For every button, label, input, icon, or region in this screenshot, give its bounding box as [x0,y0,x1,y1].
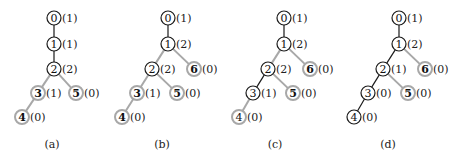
edge-1-2 [156,50,164,63]
tree-node-0: 0(1) [392,11,423,25]
node-count-label: (1) [62,12,78,25]
tree-node-1: 1(2) [277,37,308,51]
node-count-label: (0) [84,87,100,100]
node-count-label: (0) [376,87,392,100]
node-id-label: 4 [351,111,358,124]
edge-1-6 [173,49,189,64]
tree-node-1: 1(1) [47,37,78,51]
tree-diagram-svg: 0(1)1(1)2(2)3(1)5(0)4(0)(a)0(1)1(2)2(2)6… [0,0,463,161]
tree-node-1: 1(2) [392,37,423,51]
node-id-label: 2 [380,63,387,76]
node-count-label: (0) [362,111,378,124]
node-id-label: 3 [34,87,42,100]
tree-node-3: 3(1) [130,86,161,100]
node-count-label: (0) [318,63,334,76]
tree-node-5: 5(0) [69,86,100,100]
edge-3-4 [358,99,365,111]
node-id-label: 3 [133,87,141,100]
node-count-label: (2) [62,63,78,76]
tree-node-6: 6(0) [418,62,449,76]
node-id-label: 1 [396,38,403,51]
node-id-label: 0 [51,12,58,25]
node-count-label: (2) [292,38,308,51]
panel-caption: (d) [380,138,396,151]
tree-panel-a: 0(1)1(1)2(2)3(1)5(0)4(0)(a) [15,11,100,151]
tree-node-5: 5(0) [286,86,317,100]
tree-node-6: 6(0) [187,62,218,76]
tree-panel-c: 0(1)1(2)2(2)6(0)3(1)5(0)4(0)(c) [232,11,334,151]
tree-node-6: 6(0) [303,62,334,76]
tree-node-0: 0(1) [161,11,192,25]
edge-3-4 [126,99,134,111]
node-count-label: (1) [176,12,192,25]
tree-node-4: 4(0) [15,110,46,124]
node-id-label: 0 [165,12,172,25]
node-id-label: 6 [190,63,198,76]
node-count-label: (0) [130,111,146,124]
tree-panel-b: 0(1)1(2)2(2)6(0)3(1)5(0)4(0)(b) [115,11,218,151]
node-count-label: (0) [301,87,317,100]
node-count-label: (0) [416,87,432,100]
node-count-label: (0) [202,63,218,76]
node-count-label: (1) [292,12,308,25]
node-id-label: 3 [365,87,372,100]
node-id-label: 1 [281,38,288,51]
edge-2-3 [257,75,265,87]
node-count-label: (2) [160,63,176,76]
tree-node-5: 5(0) [401,86,432,100]
panel-caption: (a) [44,138,59,151]
node-id-label: 4 [236,111,243,124]
tree-node-4: 4(0) [232,110,263,124]
tree-node-0: 0(1) [47,11,78,25]
node-id-label: 5 [404,87,412,100]
node-id-label: 0 [396,12,403,25]
tree-node-0: 0(1) [277,11,308,25]
edge-1-2 [272,50,280,63]
node-id-label: 1 [51,38,58,51]
node-id-label: 4 [118,111,126,124]
tree-diagram-figure: 0(1)1(1)2(2)3(1)5(0)4(0)(a)0(1)1(2)2(2)6… [0,0,463,161]
node-id-label: 4 [18,111,26,124]
edge-3-4 [26,99,34,111]
node-id-label: 2 [149,63,156,76]
edge-1-6 [289,49,305,64]
edge-3-4 [243,99,250,111]
node-count-label: (0) [30,111,46,124]
tree-node-2: 2(2) [145,62,176,76]
tree-node-3: 3(0) [361,86,392,100]
node-count-label: (1) [261,87,277,100]
tree-panel-d: 0(1)1(2)2(1)6(0)3(0)5(0)4(0)(d) [347,11,449,151]
node-count-label: (0) [247,111,263,124]
edge-1-2 [387,50,395,63]
node-id-label: 3 [250,87,257,100]
node-count-label: (1) [407,12,423,25]
node-id-label: 6 [306,63,314,76]
tree-node-1: 1(2) [161,37,192,51]
panel-caption: (b) [154,138,170,151]
edge-2-5 [59,74,72,88]
edge-2-3 [372,75,380,87]
node-id-label: 2 [51,63,58,76]
tree-node-5: 5(0) [170,86,201,100]
node-id-label: 6 [421,63,429,76]
node-id-label: 2 [265,63,272,76]
tree-node-3: 3(1) [31,86,62,100]
node-count-label: (0) [433,63,449,76]
tree-node-2: 2(1) [376,62,407,76]
tree-node-2: 2(2) [261,62,292,76]
tree-node-2: 2(2) [47,62,78,76]
node-id-label: 5 [173,87,181,100]
node-count-label: (2) [276,63,292,76]
node-count-label: (2) [407,38,423,51]
edge-2-3 [42,75,50,87]
node-count-label: (0) [185,87,201,100]
node-id-label: 1 [165,38,172,51]
node-id-label: 5 [289,87,297,100]
node-count-label: (1) [391,63,407,76]
node-id-label: 0 [281,12,288,25]
tree-node-4: 4(0) [347,110,378,124]
edge-2-3 [141,75,149,87]
node-id-label: 5 [72,87,80,100]
tree-node-3: 3(1) [246,86,277,100]
node-count-label: (1) [46,87,62,100]
